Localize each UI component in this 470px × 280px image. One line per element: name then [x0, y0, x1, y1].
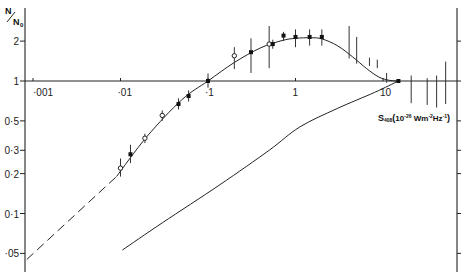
x-label-hz: Hz: [433, 114, 443, 123]
data-point-open: [143, 136, 147, 140]
y-label-subscript: 0: [20, 22, 24, 28]
data-point-filled: [282, 34, 286, 38]
y-tick-label: 1: [13, 76, 19, 87]
x-label-units-w: Wm: [412, 114, 429, 123]
y-tick-label: 0·1: [5, 209, 20, 220]
y-tick-label: ·05: [5, 248, 20, 259]
data-points: [118, 26, 445, 177]
data-point-open: [232, 54, 236, 58]
data-point-filled: [187, 94, 191, 98]
data-point-filled: [396, 79, 400, 83]
x-label-text: S408(10-26 Wm-2Hz-1): [378, 113, 450, 123]
y-tick-label: 0·5: [5, 116, 20, 127]
data-point-open: [160, 113, 164, 117]
x-tick-label: ·1: [205, 87, 214, 98]
x-axis-label: S408(10-26 Wm-2Hz-1): [378, 113, 450, 123]
y-tick-label: 0·2: [5, 169, 20, 180]
data-point-filled: [271, 42, 275, 46]
data-point-filled: [294, 35, 298, 39]
x-label-subscript: 408: [384, 117, 393, 123]
x-label-close-paren: ): [447, 113, 450, 123]
y-label-numerator: N: [5, 6, 12, 16]
data-point-open: [267, 42, 271, 46]
x-tick-label: ·001: [33, 87, 53, 98]
lower-curve-line: [122, 81, 398, 250]
data-point-filled: [176, 102, 180, 106]
y-tick-label: 0·3: [5, 145, 20, 156]
fit-line: [116, 38, 398, 177]
y-label-denominator: N: [13, 17, 20, 27]
x-tick-label: 1: [293, 87, 299, 98]
axes: [25, 8, 457, 272]
data-point-filled: [320, 35, 324, 39]
data-point-filled: [206, 79, 210, 83]
chart: N N 0 S408(10-26 Wm-2Hz-1) ·001·01·11102…: [0, 0, 470, 280]
y-tick-label: 2: [13, 36, 19, 47]
data-point-open: [118, 166, 122, 170]
data-point-filled: [128, 152, 132, 156]
curves: [27, 38, 399, 260]
data-point-filled: [308, 35, 312, 39]
fit-extrapolation-line: [27, 177, 117, 260]
x-tick-label: ·01: [118, 87, 133, 98]
y-axis-label: N N 0: [5, 6, 24, 28]
ticks: ·001·01·1110210·50·30·20·1·05: [5, 36, 461, 259]
data-point-filled: [249, 50, 253, 54]
